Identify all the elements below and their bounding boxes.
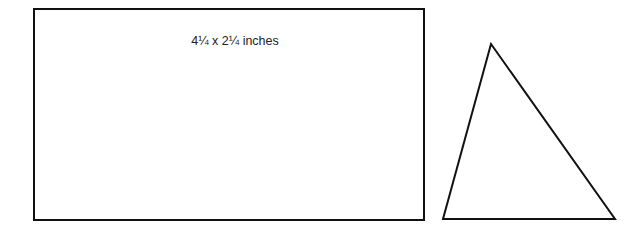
triangle-polygon <box>443 44 615 219</box>
triangle-shape <box>0 0 641 231</box>
